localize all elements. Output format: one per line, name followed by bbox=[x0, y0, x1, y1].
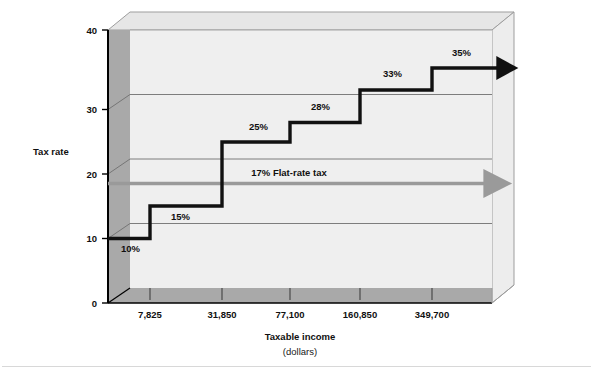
y-tick-label-10: 10 bbox=[86, 233, 97, 244]
chart-svg: 40 30 20 10 0 Tax rate 7,825 31,850 77,1… bbox=[0, 0, 593, 375]
x-tick-label-4: 160,850 bbox=[343, 309, 377, 320]
tax-rate-chart-figure: 40 30 20 10 0 Tax rate 7,825 31,850 77,1… bbox=[0, 0, 593, 375]
flat-rate-label: 17% Flat-rate tax bbox=[251, 167, 327, 178]
x-tick-label-5: 349,700 bbox=[415, 309, 449, 320]
step-label-10: 10% bbox=[121, 243, 141, 254]
y-tick-label-40: 40 bbox=[86, 25, 97, 36]
y-tick-label-20: 20 bbox=[86, 169, 97, 180]
step-label-15: 15% bbox=[171, 211, 191, 222]
x-tick-label-1: 7,825 bbox=[138, 309, 162, 320]
step-label-28: 28% bbox=[311, 101, 331, 112]
x-tick-label-3: 77,100 bbox=[275, 309, 304, 320]
plot-box-floor bbox=[108, 288, 492, 303]
plot-box-top-face bbox=[108, 12, 514, 30]
y-tick-label-0: 0 bbox=[92, 298, 97, 309]
x-tick-label-2: 31,850 bbox=[207, 309, 236, 320]
step-label-35: 35% bbox=[452, 47, 472, 58]
y-tick-label-30: 30 bbox=[86, 104, 97, 115]
plot-box-right-face bbox=[492, 12, 514, 303]
y-axis-title: Tax rate bbox=[33, 146, 69, 157]
x-axis-title: Taxable income bbox=[265, 331, 336, 342]
x-axis-subtitle: (dollars) bbox=[283, 346, 317, 357]
step-label-33: 33% bbox=[383, 68, 403, 79]
step-label-25: 25% bbox=[249, 121, 269, 132]
